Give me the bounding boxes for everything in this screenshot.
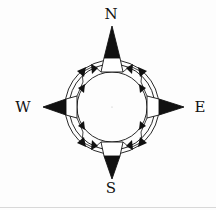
triangle-marker-icon [77, 67, 86, 77]
north-label: N [101, 7, 121, 22]
east-spike-icon [147, 96, 184, 118]
triangle-marker-icon [138, 137, 147, 147]
triangle-marker-icon [126, 64, 133, 74]
south-spike-icon [101, 142, 123, 179]
triangle-marker-icon [126, 140, 133, 150]
compass-rose-figure: N S W E [0, 0, 216, 210]
east-label: E [190, 100, 210, 115]
triangle-marker-icon [91, 140, 98, 150]
south-label: S [101, 181, 121, 196]
center-dot [111, 106, 112, 107]
bottom-divider [0, 207, 216, 208]
west-spike-icon [43, 96, 77, 118]
west-label: W [13, 100, 33, 115]
triangle-marker-icon [91, 64, 98, 74]
triangle-marker-icon [138, 67, 147, 77]
triangle-marker-icon [77, 137, 86, 147]
north-spike-icon [101, 26, 123, 72]
